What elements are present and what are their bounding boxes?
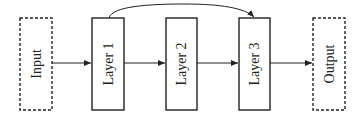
node-layer3: Layer 3: [239, 18, 270, 110]
node-input-label: Input: [29, 49, 44, 79]
node-output-label: Output: [322, 44, 337, 83]
node-layer1-label: Layer 1: [101, 42, 116, 85]
node-output: Output: [313, 18, 345, 110]
network-diagram: Input Layer 1 Layer 2 Layer 3 Output: [0, 0, 363, 121]
skip-connection-layer1-layer3: [109, 4, 254, 18]
node-layer3-label: Layer 3: [247, 42, 262, 85]
node-layer2: Layer 2: [166, 18, 197, 110]
node-input: Input: [20, 18, 52, 110]
node-layer1: Layer 1: [92, 18, 124, 110]
node-layer2-label: Layer 2: [174, 42, 189, 85]
